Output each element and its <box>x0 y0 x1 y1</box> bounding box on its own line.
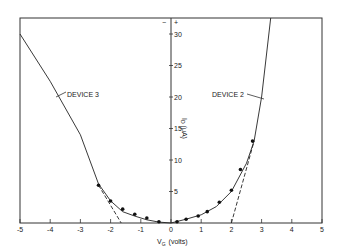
y-tick-label: 30 <box>174 31 182 38</box>
x-tick-label: 5 <box>320 226 324 233</box>
data-point <box>230 188 234 192</box>
data-markers <box>97 139 255 223</box>
x-tick-label: 1 <box>199 226 203 233</box>
data-point <box>218 200 222 204</box>
data-point <box>205 210 209 214</box>
curve-device-3-extrapolation <box>99 185 122 223</box>
x-tick-label: -3 <box>77 226 83 233</box>
x-axis-label: VG(volts) <box>157 238 188 247</box>
data-point <box>184 217 188 221</box>
x-tick-label: -4 <box>47 226 53 233</box>
y-tick-label: 10 <box>174 157 182 164</box>
data-point <box>109 199 113 203</box>
x-tick-label: 4 <box>290 226 294 233</box>
y-tick-label: 20 <box>174 94 182 101</box>
x-tick-label: -2 <box>107 226 113 233</box>
minus-sign: − <box>162 19 166 26</box>
y-tick-label: 25 <box>174 62 182 69</box>
x-tick-label: 3 <box>260 226 264 233</box>
curve-device-3 <box>20 34 171 223</box>
x-tick-label: -5 <box>17 226 23 233</box>
device2-label: DEVICE 2 <box>212 91 244 98</box>
data-point <box>239 168 243 172</box>
data-point <box>251 139 255 143</box>
plus-sign: + <box>174 19 178 26</box>
y-tick-label: 15 <box>174 125 182 132</box>
data-point <box>157 220 161 224</box>
y-tick-label: 5 <box>174 188 178 195</box>
curve-device-2-extrapolation <box>231 141 254 223</box>
data-point <box>175 220 179 224</box>
data-point <box>145 216 149 220</box>
curves <box>20 18 271 223</box>
data-point <box>97 183 101 187</box>
x-ticks: -5-4-3-2-1012345 <box>17 219 324 233</box>
x-tick-label: -1 <box>138 226 144 233</box>
device3-label: DEVICE 3 <box>67 91 99 98</box>
iv-chart: -5-4-3-2-1012345 51015202530 − + DEVICE … <box>0 0 338 251</box>
x-tick-label: 0 <box>169 226 173 233</box>
data-point <box>133 212 137 216</box>
x-tick-label: 2 <box>229 226 233 233</box>
data-point <box>196 214 200 218</box>
data-point <box>121 207 125 211</box>
